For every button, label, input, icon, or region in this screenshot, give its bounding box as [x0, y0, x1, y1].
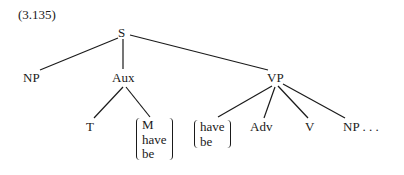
brace-item-have: have	[142, 133, 167, 146]
edge-aux-modal	[126, 87, 150, 117]
edge-vp-v	[278, 86, 308, 118]
node-vp: VP	[267, 71, 284, 85]
node-np: NP	[23, 71, 40, 85]
edge-vp-havebe	[218, 86, 272, 117]
node-modal-brace: M have be	[136, 118, 173, 160]
node-havebe-brace: have be	[194, 120, 231, 148]
node-t: T	[86, 120, 94, 134]
node-np-ellipsis: NP . . .	[343, 120, 379, 134]
brace-item-m: M	[142, 118, 167, 131]
edge-s-vp	[130, 35, 268, 70]
right-brace	[168, 118, 173, 160]
example-number: (3.135)	[18, 8, 56, 22]
brace-item-be: be	[200, 135, 225, 148]
brace-item-be: be	[142, 147, 167, 160]
edge-s-np	[40, 38, 118, 70]
node-v: V	[305, 120, 314, 134]
brace-item-have: have	[200, 120, 225, 133]
node-adv: Adv	[250, 120, 272, 134]
edge-aux-t	[94, 87, 123, 118]
right-brace	[226, 120, 231, 148]
edge-vp-adv	[264, 87, 275, 118]
node-s: S	[118, 26, 125, 40]
node-aux: Aux	[112, 71, 134, 85]
